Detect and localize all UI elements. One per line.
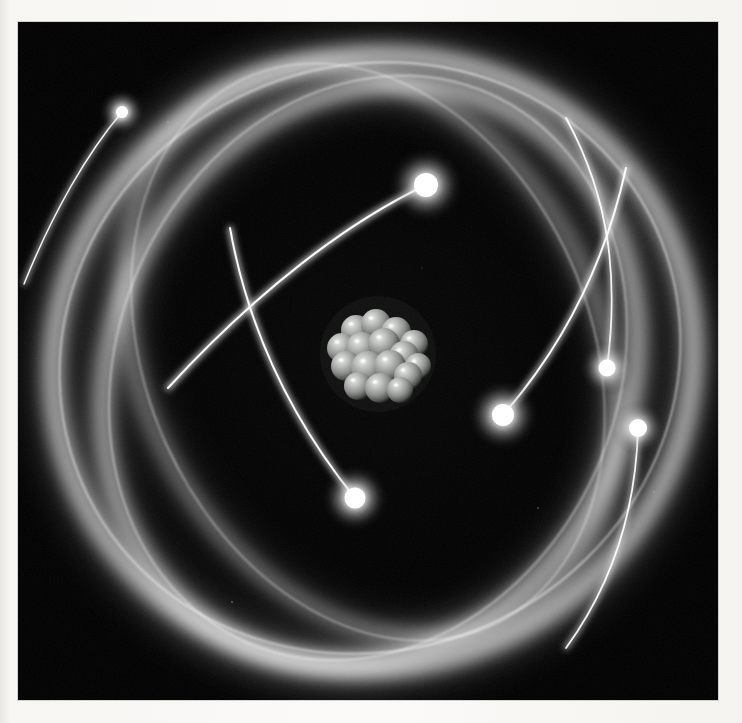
screenshot-stage: Atom illustration	[0, 0, 742, 723]
nucleus[interactable]	[320, 296, 436, 412]
electron-far-right[interactable]	[610, 400, 666, 456]
atom-diagram	[18, 22, 718, 700]
electron-right-upper[interactable]	[579, 340, 635, 396]
electron-right-lower[interactable]	[467, 379, 539, 451]
electron-top-left[interactable]	[98, 88, 146, 136]
electron-upper-center[interactable]	[388, 147, 464, 223]
nucleus-particle	[387, 377, 413, 403]
electron-bottom-center[interactable]	[321, 464, 389, 532]
atom-photograph	[18, 22, 718, 700]
